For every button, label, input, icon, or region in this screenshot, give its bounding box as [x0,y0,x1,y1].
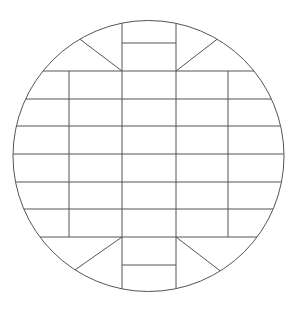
diagonal-line [77,37,122,71]
wafer-diagram [0,0,297,310]
grid-lines [0,0,297,310]
diagonal-line [176,237,223,273]
diagonal-line [72,237,122,272]
wafer-outline [13,21,284,292]
diagonal-line [176,37,220,71]
